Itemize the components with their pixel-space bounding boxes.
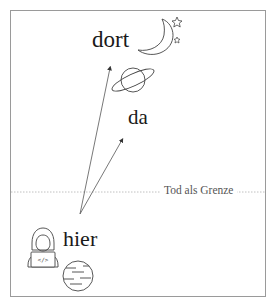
diagram-canvas: </> [0,0,275,308]
star-icon [172,17,182,27]
arrow-hier-to-da [80,140,122,214]
star-icon [174,37,180,43]
svg-text:</>: </> [38,256,49,263]
developer-avatar-icon: </> [28,228,58,267]
label-da: da [128,107,148,128]
moon-icon [138,19,173,54]
earth-planet-icon [63,261,93,291]
label-dort: dort [92,28,129,51]
label-hier: hier [63,228,97,250]
boundary-label: Tod als Grenze [160,185,237,197]
ringed-planet-icon [110,65,157,95]
